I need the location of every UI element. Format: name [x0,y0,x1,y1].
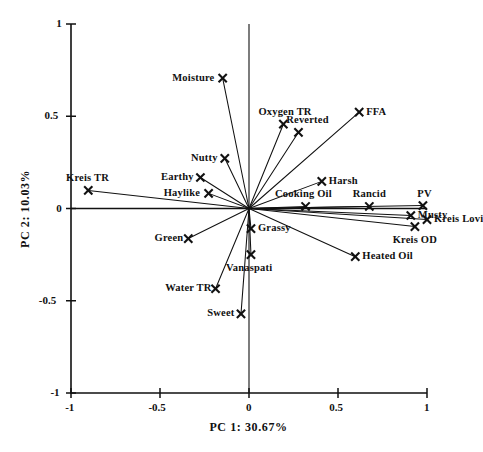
y-tick-label: -1 [50,387,59,398]
loading-marker [221,154,229,162]
x-tick-label: -0.5 [148,402,165,413]
point-label: Kreis TR [66,173,109,184]
loading-marker [294,128,302,136]
loading-marker [184,234,192,242]
loading-vector [188,209,249,239]
point-label: Vanaspati [226,263,272,274]
point-label: Haylike [164,188,200,199]
loading-marker [204,189,212,197]
x-tick-label: -1 [65,402,74,413]
loading-marker [318,177,326,185]
point-label: Kreis Lovi [434,214,483,225]
loading-vector [223,78,249,208]
point-label: Cooking Oil [275,189,332,200]
y-tick-label: -0.5 [39,295,56,306]
x-axis-title: PC 1: 30.67% [209,420,287,435]
point-label: Nutty [191,153,218,164]
loading-marker [351,253,359,261]
y-axis-title: PC 2: 10.03% [18,170,33,248]
x-tick-label: 1 [424,402,430,413]
y-tick-label: 0.5 [45,110,59,121]
loading-marker [219,74,227,82]
y-tick-label: 0 [56,203,62,214]
point-label: Water TR [165,283,211,294]
x-tick-label: 0 [246,402,252,413]
point-label: Kreis OD [393,235,437,246]
point-label: Grassy [258,223,291,234]
point-label: Moisture [172,73,214,84]
point-label: Rancid [353,189,386,200]
x-tick-label: 0.5 [329,402,343,413]
y-tick-label: 1 [56,18,62,29]
point-label: Green [155,233,184,244]
point-label: Earthy [161,172,194,183]
point-label: Harsh [329,176,358,187]
loading-marker [355,108,363,116]
point-label: PV [417,189,431,200]
point-label: FFA [366,107,386,118]
point-label: Sweet [207,308,234,319]
point-label: Heated Oil [362,251,413,262]
loading-marker [196,173,204,181]
point-label: Reverted [286,115,328,126]
loading-marker [211,285,219,293]
